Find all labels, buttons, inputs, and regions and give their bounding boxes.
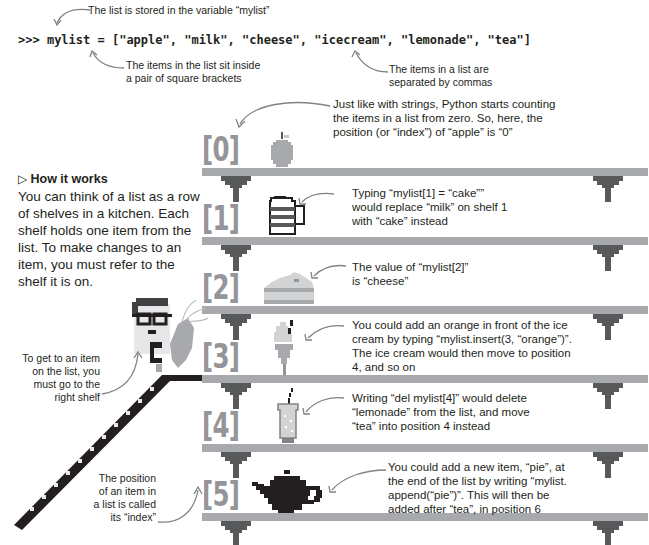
how-it-works-panel: ▷ How it works You can think of a list a…	[18, 172, 208, 290]
shelf-note-5: You could add a new item, “pie”, at the …	[388, 460, 567, 516]
body-line: list. To make changes to an	[18, 239, 208, 256]
brackets-annotation: The items in the list sit inside a pair …	[126, 59, 260, 85]
shelf-note-4: Writing “del mylist[4]” would delete “le…	[352, 391, 530, 433]
note-line: To get to an item	[14, 352, 100, 365]
note-line: The ice cream would then move to positio…	[352, 346, 572, 360]
curved-arrow-icon	[156, 484, 204, 528]
shelf-2	[202, 306, 648, 314]
note-line: on the list, you	[14, 365, 100, 378]
note-line: The position	[72, 472, 156, 485]
note-line: a list is called	[72, 498, 156, 511]
index-label-5: [5]	[202, 476, 239, 512]
note-line: “tea” into position 4 instead	[352, 419, 530, 433]
index-label-4: [4]	[202, 407, 239, 443]
shelf-3	[202, 375, 648, 383]
note-line: the end of the list by writing “mylist.	[388, 474, 567, 488]
teapot-icon	[250, 470, 330, 514]
note-line: of an item in	[72, 485, 156, 498]
curved-arrow-icon	[350, 50, 390, 78]
prompt: >>>	[18, 33, 40, 47]
apple-icon	[268, 132, 296, 168]
note-line: would replace “milk” on shelf 1	[352, 200, 507, 214]
curved-arrow-icon	[308, 262, 348, 282]
note-line: its “index”	[72, 511, 156, 524]
index-definition-note: The position of an item in a list is cal…	[72, 472, 156, 524]
shelf-note-1: Typing “mylist[1] = “cake”” would replac…	[352, 186, 507, 228]
note-line: 4, and so on	[352, 360, 572, 374]
curved-arrow-icon	[232, 100, 332, 130]
ice-cream-icon	[272, 320, 302, 376]
code-statement: mylist = ["apple", "milk", "cheese", "ic…	[47, 33, 531, 47]
shelf-4	[202, 444, 648, 452]
shelf-access-note: To get to an item on the list, you must …	[14, 352, 100, 404]
triangle-right-icon: ▷	[18, 172, 27, 186]
note-line: append(“pie”)”. This will then be	[388, 488, 567, 502]
curved-arrow-icon	[326, 466, 388, 496]
index-label-0: [0]	[202, 131, 239, 167]
note-line: You could add an orange in front of the …	[352, 318, 572, 332]
note-line: You could add a new item, “pie”, at	[388, 460, 567, 474]
lemonade-glass-icon	[276, 388, 302, 444]
note-line: Writing “del mylist[4]” would delete	[352, 391, 530, 405]
how-it-works-heading: ▷ How it works	[18, 172, 208, 186]
note-line: cream by typing “mylist.insert(3, “orang…	[352, 332, 572, 346]
variable-annotation: The list is stored in the variable “myli…	[88, 4, 269, 17]
curved-arrow-icon	[52, 6, 92, 28]
code-line: >>> mylist = ["apple", "milk", "cheese",…	[18, 33, 531, 47]
note-line: must go to the	[14, 378, 100, 391]
note-line: position (or “index”) of “apple” is “0”	[333, 125, 555, 139]
commas-annotation: The items in a list are separated by com…	[389, 63, 492, 89]
body-line: item, you must refer to the	[18, 256, 208, 273]
annotation-line: The items in the list sit inside	[126, 59, 260, 72]
curved-arrow-icon	[88, 50, 128, 74]
note-line: is “cheese”	[352, 274, 468, 288]
note-line: The value of “mylist[2]”	[352, 260, 468, 274]
curved-arrow-icon	[100, 350, 144, 400]
note-line: right shelf	[14, 391, 100, 404]
note-line: the items in a list from zero. So, here,…	[333, 111, 555, 125]
annotation-line: separated by commas	[389, 76, 492, 89]
curved-arrow-icon	[296, 190, 336, 208]
shelf-0	[202, 168, 648, 176]
body-line: You can think of a list as a row	[18, 188, 208, 205]
index-label-1: [1]	[202, 200, 239, 236]
annotation-line: The items in a list are	[389, 63, 492, 76]
shelf-1	[202, 237, 648, 245]
note-line: with “cake” instead	[352, 214, 507, 228]
note-line: “lemonade” from the list, and move	[352, 405, 530, 419]
note-line: added after “tea”, in position 6	[388, 502, 567, 516]
annotation-line: a pair of square brackets	[126, 72, 260, 85]
note-line: Typing “mylist[1] = “cake””	[352, 186, 507, 200]
heading-text: How it works	[30, 172, 107, 186]
shelf-note-2: The value of “mylist[2]” is “cheese”	[352, 260, 468, 288]
body-line: of shelves in a kitchen. Each	[18, 205, 208, 222]
body-line: shelf it is on.	[18, 273, 208, 290]
curved-arrow-icon	[302, 322, 346, 344]
how-it-works-body: You can think of a list as a row of shel…	[18, 188, 208, 290]
note-line: Just like with strings, Python starts co…	[333, 97, 555, 111]
body-line: shelf holds one item from the	[18, 222, 208, 239]
curved-arrow-icon	[300, 394, 346, 418]
shelf-note-3: You could add an orange in front of the …	[352, 318, 572, 374]
shelf-note-0: Just like with strings, Python starts co…	[333, 97, 555, 139]
